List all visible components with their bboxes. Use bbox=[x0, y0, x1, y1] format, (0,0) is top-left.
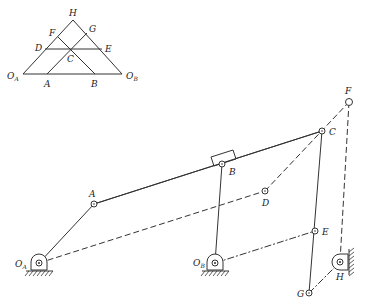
joint-A bbox=[91, 201, 97, 207]
link-F-H bbox=[340, 102, 349, 262]
inset-label-D: D bbox=[34, 43, 42, 53]
joint-C bbox=[319, 128, 325, 134]
label-C: C bbox=[329, 127, 336, 137]
diagram-canvas: H F G D E C OA A B OB bbox=[0, 0, 365, 305]
inset-label-C: C bbox=[67, 54, 74, 64]
inset-label-F: F bbox=[48, 28, 56, 38]
label-H: H bbox=[335, 272, 344, 282]
joint-E bbox=[312, 228, 318, 234]
inset-line-FB bbox=[58, 37, 95, 74]
label-F: F bbox=[344, 86, 352, 96]
joint-G bbox=[306, 290, 312, 296]
joint-D bbox=[262, 188, 268, 194]
label-OB: OB bbox=[193, 258, 205, 269]
label-D: D bbox=[261, 198, 269, 208]
inset-label-OB: OB bbox=[126, 71, 138, 82]
joint-B bbox=[219, 161, 225, 167]
inset-label-E: E bbox=[104, 44, 112, 54]
inset-left-side bbox=[23, 20, 73, 74]
link-D-F bbox=[265, 102, 349, 191]
inset-label-G: G bbox=[89, 24, 96, 34]
ground-pivot-OA bbox=[25, 254, 53, 276]
inset-lattice-diagram: H F G D E C OA A B OB bbox=[7, 8, 138, 89]
inset-label-B: B bbox=[90, 79, 98, 89]
label-A: A bbox=[88, 189, 96, 199]
inset-label-H: H bbox=[68, 8, 77, 18]
label-OA: OA bbox=[15, 259, 27, 270]
label-B: B bbox=[228, 167, 236, 177]
inset-label-OA: OA bbox=[7, 71, 19, 82]
link-OB-B bbox=[215, 164, 222, 263]
linkage-mechanism: OA A B C D E F G H OB bbox=[15, 86, 354, 299]
inset-label-A: A bbox=[43, 79, 51, 89]
inset-right-side bbox=[73, 20, 122, 74]
link-OB-E bbox=[215, 231, 315, 263]
link-C-G bbox=[309, 131, 322, 293]
label-E: E bbox=[321, 227, 329, 237]
ground-pivot-OB bbox=[201, 254, 229, 276]
joint-F bbox=[346, 99, 353, 106]
label-G: G bbox=[297, 289, 304, 299]
